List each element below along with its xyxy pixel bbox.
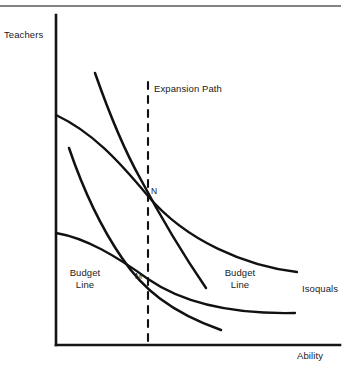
x-axis-label: Ability [297, 350, 323, 362]
isoquals-label: Isoquals [302, 283, 338, 295]
isoquant-diagram-figure: Teachers Ability Expansion Path Budget L… [0, 0, 349, 372]
y-axis-label: Teachers [4, 29, 43, 41]
budget-line-label-right: Budget Line [215, 267, 265, 291]
point-n-label: N [151, 186, 157, 197]
curve-group [56, 73, 297, 345]
point-m-label: M [135, 271, 142, 282]
curve-isoquant-upper [56, 115, 297, 272]
budget-line-label-left: Budget Line [60, 267, 110, 291]
expansion-path-label: Expansion Path [154, 83, 222, 95]
diagram-canvas [0, 0, 349, 372]
